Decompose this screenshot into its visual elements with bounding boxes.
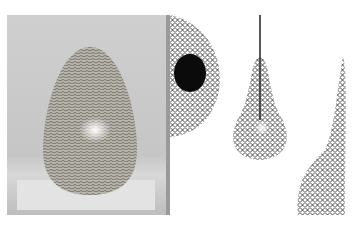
shade-opening (174, 54, 206, 92)
lamp-collage-illustration (0, 0, 355, 228)
pear-pendant-lamp (233, 57, 287, 160)
tall-net-shade (298, 57, 346, 215)
